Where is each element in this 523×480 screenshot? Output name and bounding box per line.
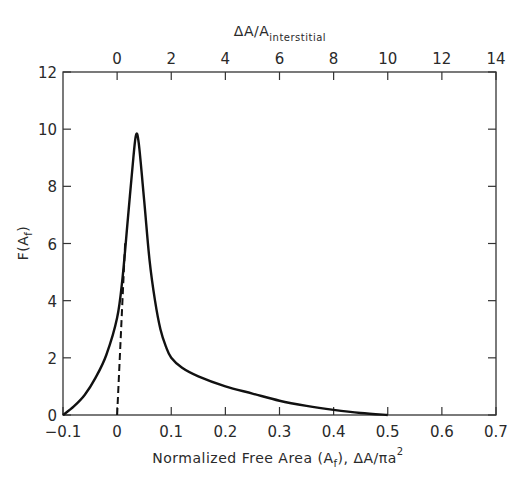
x-axis-title: Normalized Free Area (Af), ΔA/πa2 — [152, 446, 403, 469]
y-axis-left: 024681012 — [38, 64, 496, 425]
x-tick-label: 0.7 — [484, 423, 508, 441]
x-tick-label: 0.4 — [322, 423, 346, 441]
data-series — [63, 134, 388, 415]
y-tick-label: 6 — [47, 236, 57, 254]
y-tick-label: 10 — [38, 121, 57, 139]
top-x-tick-label: 6 — [275, 50, 285, 68]
solid-curve — [63, 134, 388, 415]
y-tick-label: 2 — [47, 350, 57, 368]
top-x-tick-label: 14 — [486, 50, 505, 68]
x-tick-label: 0 — [112, 423, 122, 441]
y-tick-label: 0 — [47, 407, 57, 425]
plot-frame — [63, 72, 496, 415]
y-tick-label: 8 — [47, 178, 57, 196]
x-axis-top: 02468101214 — [112, 50, 505, 80]
x-tick-label: −0.1 — [45, 423, 81, 441]
top-x-tick-label: 0 — [112, 50, 122, 68]
chart: −0.100.10.20.30.40.50.60.7 02468101214 0… — [0, 0, 523, 480]
top-x-tick-label: 2 — [166, 50, 176, 68]
x-tick-label: 0.2 — [213, 423, 237, 441]
top-x-tick-label: 8 — [329, 50, 339, 68]
top-x-tick-label: 4 — [221, 50, 231, 68]
top-x-tick-label: 12 — [432, 50, 451, 68]
y-axis-title: F(Af) — [15, 226, 34, 261]
x-tick-label: 0.6 — [430, 423, 454, 441]
dashed-line — [117, 241, 125, 415]
y-tick-label: 12 — [38, 64, 57, 82]
y-tick-label: 4 — [47, 293, 57, 311]
x-axis-bottom: −0.100.10.20.30.40.50.60.7 — [45, 407, 508, 441]
x-tick-label: 0.5 — [376, 423, 400, 441]
x-tick-label: 0.3 — [268, 423, 292, 441]
top-x-axis-title: ΔA/Ainterstitial — [234, 23, 326, 43]
x-tick-label: 0.1 — [159, 423, 183, 441]
top-x-tick-label: 10 — [378, 50, 397, 68]
